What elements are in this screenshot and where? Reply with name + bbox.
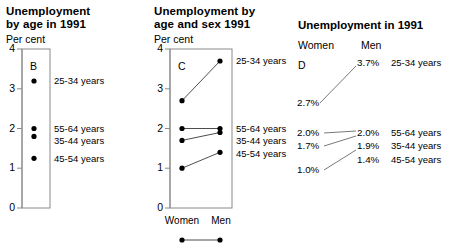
panel-unemployment-by-age: Unemployment by age in 1991 Per cent 4 3… [0, 0, 150, 252]
panel-c-point-women-55-64 [179, 126, 184, 131]
panel-c-ytick-label-2: 2 [151, 123, 163, 134]
panel-d-men-55-64: 2.0% [357, 128, 379, 138]
panel-c-series-label-55-64: 55-64 years [236, 124, 286, 134]
panel-c-ytick-label-0: 0 [151, 202, 163, 213]
panel-c-line-35-44 [182, 133, 220, 141]
panel-b-ytick-label-3: 3 [3, 83, 15, 94]
panel-c-point-men-25-34 [217, 58, 222, 63]
panel-b-ytick-label-1: 1 [3, 162, 15, 173]
panel-c-letter: C [178, 61, 186, 72]
panel-b-ytick-label-0: 0 [3, 202, 15, 213]
panel-c-point-women-45-54 [179, 166, 184, 171]
panel-d-age-35-44: 35-44 years [391, 141, 441, 151]
panel-d-connectors [293, 0, 463, 252]
panel-c-point-women-35-44 [179, 138, 184, 143]
panel-d-men-45-54: 1.4% [357, 155, 379, 165]
panel-c-series-label-35-44: 35-44 years [236, 136, 286, 146]
panel-b-series-label-35-44: 35-44 years [54, 136, 104, 146]
panel-d-connector-55-64 [324, 131, 356, 133]
panel-d-age-45-54: 45-54 years [391, 155, 441, 165]
panel-b-series-label-25-34: 25-34 years [54, 76, 104, 86]
panel-c-ytick-label-4: 4 [151, 43, 163, 54]
panel-d-women-25-34: 2.7% [297, 98, 319, 108]
panel-c-ytick-label-3: 3 [151, 83, 163, 94]
panel-c-ytick-label-1: 1 [151, 162, 163, 173]
panel-c-series-label-45-54: 45-54 years [236, 149, 286, 159]
panel-b-series-label-55-64: 55-64 years [54, 124, 104, 134]
panel-d-men-35-44: 1.9% [357, 141, 379, 151]
panel-c-series-label-25-34: 25-34 years [236, 56, 286, 66]
panel-b-point-25-34 [31, 78, 36, 83]
panel-d-connector-45-54 [324, 150, 356, 170]
panel-c-xcat-men: Men [205, 215, 237, 226]
panel-b-point-45-54 [31, 156, 36, 161]
panel-d-women-55-64: 2.0% [297, 128, 319, 138]
panel-c-point-women-25-34 [179, 98, 184, 103]
panel-unemployment-table: Unemployment in 1991 Women Men D 2.7% 3.… [293, 0, 463, 252]
panel-c-legend-dot-men [217, 237, 222, 242]
panel-c-line-45-54 [182, 152, 220, 168]
panel-d-men-25-34: 3.7% [357, 58, 379, 68]
panel-d-age-55-64: 55-64 years [391, 128, 441, 138]
panel-c-point-men-45-54 [217, 150, 222, 155]
panel-c-xcat-women: Women [158, 215, 206, 226]
panel-d-connector-25-34 [320, 66, 356, 103]
panel-b-point-35-44 [31, 134, 36, 139]
panel-c-point-men-35-44 [217, 130, 222, 135]
panel-d-women-45-54: 1.0% [297, 165, 319, 175]
panel-d-age-25-34: 25-34 years [391, 58, 441, 68]
panel-c-line-25-34 [182, 61, 220, 101]
panel-b-ytick-label-4: 4 [3, 43, 15, 54]
panel-d-women-35-44: 1.7% [297, 141, 319, 151]
panel-d-connector-35-44 [324, 136, 356, 146]
panel-c-legend-dot-women [179, 237, 184, 242]
panel-b-series-label-45-54: 45-54 years [54, 154, 104, 164]
panel-b-point-55-64 [31, 126, 36, 131]
panel-b-ytick-label-2: 2 [3, 123, 15, 134]
panel-unemployment-by-age-and-sex: Unemployment by age and sex 1991 Per cen… [148, 0, 293, 252]
panel-b-letter: B [30, 61, 37, 72]
